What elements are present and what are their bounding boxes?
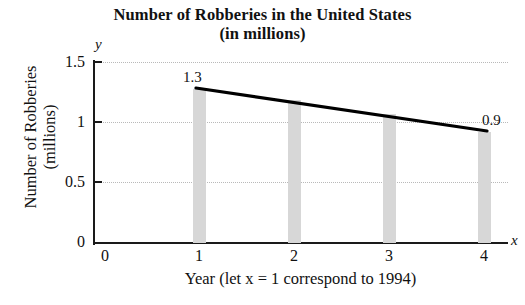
y-tick-label-1-0: 1 [25,114,85,130]
x-tick-label-4: 4 [469,247,499,265]
point-label-0-9: 0.9 [482,113,501,128]
x-tick-label-3: 3 [374,247,404,265]
x-axis-letter: x [511,232,518,249]
gridline-1-5 [93,62,508,64]
chart-title-line-1: Number of Robberies in the United States [0,5,525,24]
bar-year-2 [288,100,301,243]
y-tick-mark-0-5 [93,181,102,183]
x-tick-label-1: 1 [184,247,214,265]
bar-year-1 [193,89,206,243]
bar-year-4 [478,132,491,243]
trend-line-overlay [0,0,525,305]
y-tick-label-0: 0 [25,234,85,250]
y-axis-letter: y [95,36,102,53]
trend-line [196,88,487,131]
chart-figure: Number of Robberies in the United States… [0,0,525,305]
y-tick-label-1-5: 1.5 [25,54,85,70]
point-label-1-3: 1.3 [183,70,202,85]
x-axis-title: Year (let x = 1 correspond to 1994) [93,270,508,288]
y-tick-mark-1-5 [93,61,102,63]
x-tick-label-0: 0 [90,247,120,265]
y-tick-label-0-5: 0.5 [25,174,85,190]
y-axis-line [93,60,95,245]
x-tick-label-2: 2 [279,247,309,265]
bar-year-3 [383,114,396,243]
y-tick-mark-1-0 [93,121,102,123]
chart-title: Number of Robberies in the United States… [0,5,525,43]
chart-title-line-2: (in millions) [0,24,525,43]
